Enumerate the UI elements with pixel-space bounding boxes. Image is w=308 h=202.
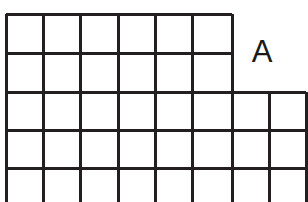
region-label-a: A <box>247 33 277 71</box>
grid-drawing <box>0 0 308 202</box>
grid-figure: A <box>0 0 308 202</box>
